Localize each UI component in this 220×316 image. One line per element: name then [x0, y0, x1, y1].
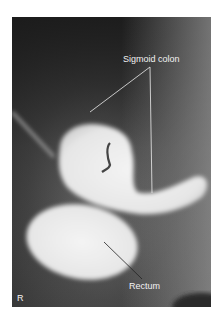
xray-image: Sigmoid colon Rectum R [12, 17, 211, 307]
label-rectum: Rectum [129, 281, 160, 291]
label-sigmoid-colon: Sigmoid colon [123, 54, 180, 64]
xray-graphic [12, 17, 211, 307]
side-marker-right: R [17, 293, 24, 303]
